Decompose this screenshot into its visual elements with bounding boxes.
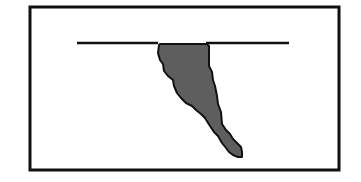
diagram-canvas [0, 0, 361, 182]
